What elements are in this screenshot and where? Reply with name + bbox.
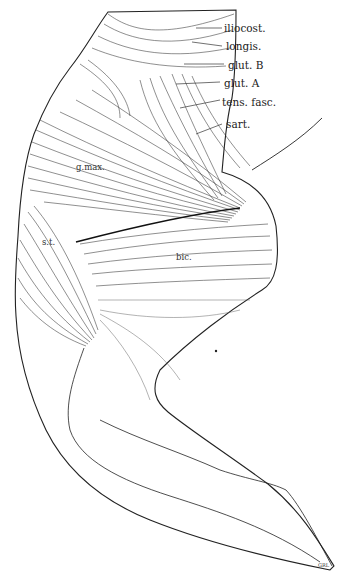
label-g-max: g.max. <box>76 162 105 172</box>
label-bic: bic. <box>176 252 192 262</box>
muscle-bic-fibers <box>80 224 272 400</box>
muscle-g-max-fibers <box>28 90 246 222</box>
label-s-t: s.t. <box>42 237 55 247</box>
anatomical-figure: iliocost. longis. glut. B glut. A tens. … <box>0 0 349 582</box>
muscle-st-fibers <box>18 206 98 346</box>
ink-dot <box>215 350 217 352</box>
label-glut-a: glut. A <box>224 77 260 89</box>
inner-contour <box>68 348 320 562</box>
limb-outline <box>15 10 334 570</box>
label-longis: longis. <box>226 40 261 52</box>
label-sart: sart. <box>226 118 250 130</box>
inner-contour-2 <box>100 420 332 566</box>
label-tens-fasc: tens. fasc. <box>222 96 276 108</box>
label-glut-b: glut. B <box>228 59 264 71</box>
artist-signature: GRL <box>318 562 330 568</box>
label-iliocost: iliocost. <box>224 22 266 34</box>
septum-line <box>76 208 240 242</box>
leader-lines <box>176 28 224 134</box>
tendon-line <box>252 118 322 170</box>
